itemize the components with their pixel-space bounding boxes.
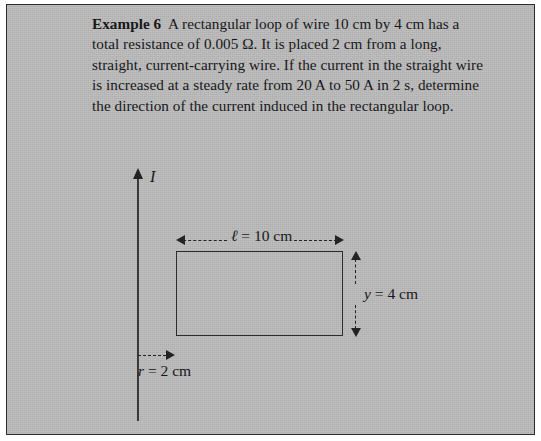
- problem-statement: Example 6 A rectangular loop of wire 10 …: [92, 14, 484, 116]
- example-label: Example 6: [92, 15, 161, 32]
- textbook-figure-page: Example 6 A rectangular loop of wire 10 …: [0, 0, 541, 441]
